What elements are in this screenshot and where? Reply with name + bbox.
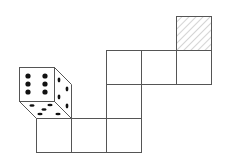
cell-top-3	[177, 51, 212, 85]
cell-bottom-1	[37, 119, 72, 153]
dice-path-diagram	[0, 0, 225, 163]
hatched-target-cell	[177, 17, 212, 51]
cell-top-1	[107, 51, 142, 85]
cell-bottom-3	[107, 119, 142, 153]
cell-top-2	[142, 51, 177, 85]
die-front-face	[20, 68, 55, 102]
cell-middle	[107, 85, 142, 119]
cell-bottom-2	[72, 119, 107, 153]
